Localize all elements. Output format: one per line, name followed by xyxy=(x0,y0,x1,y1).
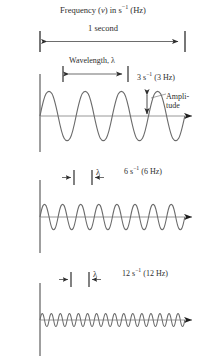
frequency-label-3hz: 3 s−1 (3 Hz) xyxy=(137,74,175,82)
amplitude-label-line2: tude xyxy=(166,101,189,110)
lambda-label-12hz: λ xyxy=(93,270,97,279)
frequency-label-6hz: 6 s−1 (6 Hz) xyxy=(124,168,162,176)
amplitude-label-line1: Ampli- xyxy=(166,92,189,101)
frequency-wave-figure: Frequency (ν) in s−1 (Hz) 1 second Wavel… xyxy=(0,0,206,358)
one-second-label: 1 second xyxy=(0,24,206,33)
wavelength-measure-1 xyxy=(63,66,128,82)
panel-6hz xyxy=(40,170,192,253)
figure-title: Frequency (ν) in s−1 (Hz) xyxy=(0,6,206,15)
lambda-label-6hz: λ xyxy=(96,168,100,177)
amplitude-label: Ampli- tude xyxy=(166,92,189,110)
wave-diagram-svg xyxy=(0,0,206,358)
one-second-span xyxy=(40,31,185,52)
panel-12hz xyxy=(40,272,192,356)
wavelength-label: Wavelength, λ xyxy=(38,57,146,65)
frequency-label-12hz: 12 s−1 (12 Hz) xyxy=(122,270,168,278)
